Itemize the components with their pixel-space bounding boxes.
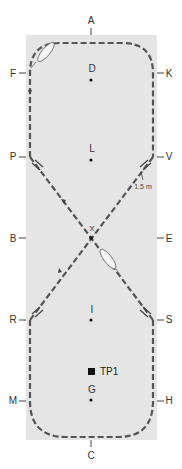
marker-m: M [9,396,17,406]
point-x-dot [89,236,93,240]
marker-e: E [166,234,173,244]
point-l-label: L [89,144,95,154]
marker-k: K [166,69,173,79]
marker-h: H [165,396,172,406]
point-d-label: D [88,64,95,74]
point-d-dot [89,78,92,81]
dressage-arena-diagram: A C F K P V B E R S M H D L X I G TP1 1.… [0,0,182,469]
point-g-dot [89,398,92,401]
distance-label: 1.5 m [134,183,152,190]
marker-f: F [10,69,16,79]
point-i-label: I [91,305,94,315]
marker-r: R [9,315,16,325]
point-i-dot [89,318,92,321]
marker-v: V [166,152,173,162]
marker-a: A [88,16,95,26]
point-l-dot [89,158,92,161]
point-g-label: G [88,385,96,395]
transition-point-marker [88,368,95,375]
transition-point-label: TP1 [100,367,118,377]
marker-s: S [166,315,173,325]
marker-b: B [10,234,17,244]
marker-p: P [10,152,17,162]
point-x-label: X [89,224,94,234]
marker-c: C [87,451,94,461]
